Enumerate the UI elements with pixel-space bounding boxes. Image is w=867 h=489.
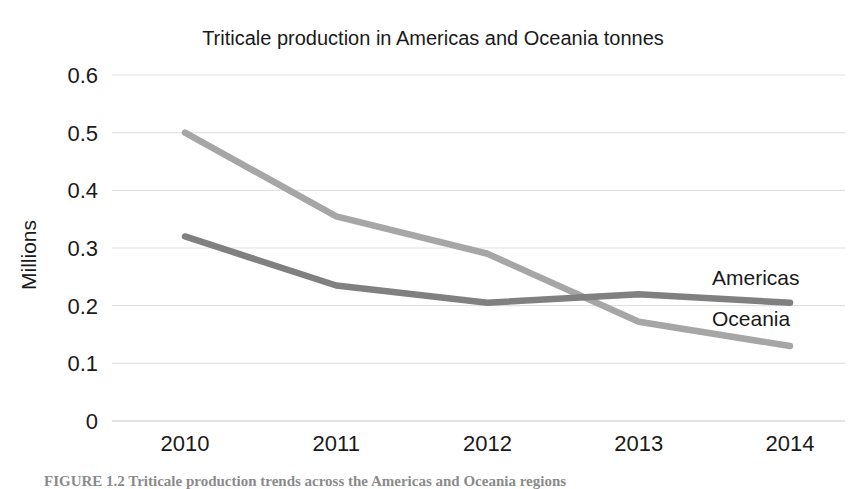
y-tick-label: 0.5: [67, 121, 98, 146]
x-tick-label: 2010: [161, 431, 210, 456]
figure-caption-text: FIGURE 1.2 Triticale production trends a…: [44, 475, 867, 489]
chart-title: Triticale production in Americas and Oce…: [202, 27, 664, 49]
y-tick-label: 0.4: [67, 178, 98, 203]
x-tick-label: 2013: [614, 431, 663, 456]
x-tick-label: 2011: [313, 431, 360, 456]
y-tick-label: 0.3: [67, 236, 98, 261]
series-label-americas: Americas: [712, 266, 800, 289]
figure-caption: FIGURE 1.2 Triticale production trends a…: [0, 475, 867, 489]
y-tick-label: 0: [86, 409, 98, 434]
y-tick-label: 0.6: [67, 63, 98, 88]
y-tick-label: 0.1: [67, 351, 98, 376]
series-label-oceania: Oceania: [712, 307, 791, 330]
series-line-americas: [185, 236, 790, 302]
x-tick-label: 2012: [463, 431, 512, 456]
x-axis-tick-labels: 20102011201220132014: [161, 431, 815, 456]
y-tick-label: 0.2: [67, 294, 98, 319]
y-axis-tick-labels: 00.10.20.30.40.50.6: [67, 63, 98, 434]
chart-figure: Triticale production in Americas and Oce…: [0, 0, 867, 489]
y-axis-title: Millions: [17, 220, 40, 290]
series-lines-group: [185, 133, 790, 346]
series-line-oceania: [185, 133, 790, 346]
x-tick-label: 2014: [766, 431, 815, 456]
line-chart: Triticale production in Americas and Oce…: [0, 0, 867, 489]
